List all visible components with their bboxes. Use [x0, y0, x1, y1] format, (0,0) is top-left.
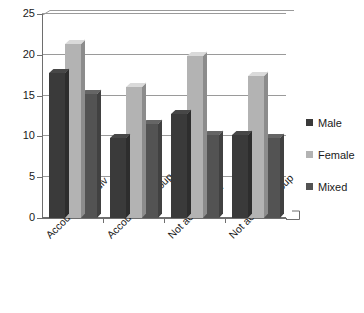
chart-legend: MaleFemaleMixed — [306, 116, 364, 212]
legend-item[interactable]: Female — [306, 148, 364, 161]
bar-side-face — [158, 120, 162, 218]
legend-swatch-icon — [306, 183, 313, 190]
bar-group — [110, 14, 158, 218]
x-axis-3d-depth — [286, 210, 300, 220]
bar-group — [171, 14, 219, 218]
bar-side-face — [219, 130, 223, 218]
bar-side-face — [280, 134, 284, 218]
bar-front-face — [49, 73, 65, 218]
y-tick-mark-10 — [37, 136, 42, 137]
y-tick-label-25: 25 — [11, 8, 35, 19]
y-tick-mark-5 — [37, 177, 42, 178]
y-tick-label-20: 20 — [11, 49, 35, 60]
y-axis-line — [42, 14, 43, 219]
legend-swatch-icon — [306, 119, 313, 126]
bar-side-face — [126, 134, 130, 218]
bar-side-face — [187, 109, 191, 218]
bar-front-face — [232, 135, 248, 218]
y-tick-mark-20 — [37, 55, 42, 56]
bar-front-face — [110, 138, 126, 218]
legend-label: Mixed — [318, 181, 347, 193]
legend-swatch-icon — [306, 151, 313, 158]
bar-side-face — [264, 72, 268, 218]
bar-front-face — [171, 114, 187, 218]
bar[interactable] — [49, 73, 65, 218]
y-tick-label-5: 5 — [11, 171, 35, 182]
bar[interactable] — [232, 135, 248, 218]
y-tick-label-0: 0 — [11, 212, 35, 223]
bar-side-face — [248, 130, 252, 218]
y-tick-mark-15 — [37, 96, 42, 97]
y-tick-label-10: 10 — [11, 130, 35, 141]
bar[interactable] — [110, 138, 126, 218]
bar-group — [232, 14, 280, 218]
y-tick-label-15: 15 — [11, 90, 35, 101]
x-tick-mark-2 — [164, 219, 165, 223]
legend-label: Male — [318, 117, 342, 129]
x-tick-mark-1 — [103, 219, 104, 223]
y-tick-mark-25 — [37, 14, 42, 15]
bar-side-face — [81, 40, 85, 218]
x-tick-mark-3 — [225, 219, 226, 223]
bar-side-face — [97, 90, 101, 218]
bar[interactable] — [171, 114, 187, 218]
bar-side-face — [142, 83, 146, 218]
legend-item[interactable]: Mixed — [306, 180, 364, 193]
bar-side-face — [203, 52, 207, 218]
legend-item[interactable]: Male — [306, 116, 364, 129]
legend-label: Female — [318, 149, 355, 161]
bar-side-face — [65, 68, 69, 218]
bar-group — [49, 14, 97, 218]
bar-chart: 0510152025 Accountable indivAccountable … — [0, 0, 364, 313]
